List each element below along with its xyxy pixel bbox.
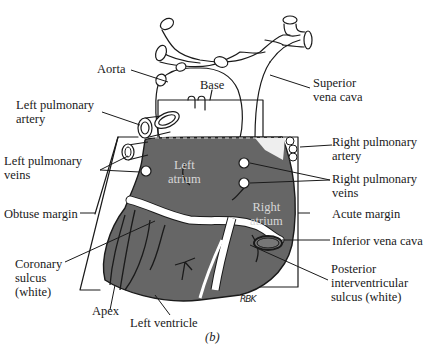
superior-vena-cava [255,40,300,138]
aortic-arch [154,16,312,67]
label-superior-vena-cava: Superior vena cava [313,76,363,104]
label-aorta: Aorta [97,62,125,76]
label-inferior-vena-cava: Inferior vena cava [332,234,423,248]
label-acute-margin: Acute margin [332,207,400,221]
label-left-pulmonary-veins: Left pulmonary veins [4,154,82,182]
label-base: Base [200,78,224,92]
artist-signature: RBK [240,292,255,306]
figure-caption: (b) [205,330,220,344]
label-right-pulmonary-veins: Right pulmonary veins [332,172,417,200]
label-apex: Apex [92,304,119,318]
label-coronary-sulcus: Coronary sulcus (white) [15,257,62,299]
label-right-atrium: Right atrium [250,200,283,228]
label-posterior-interventricular-sulcus: Posterior interventricular sulcus (white… [331,262,408,304]
left-pulmonary-artery [138,96,205,138]
label-obtuse-margin: Obtuse margin [4,207,78,221]
label-left-pulmonary-artery: Left pulmonary artery [16,98,94,126]
label-left-atrium: Left atrium [168,158,201,186]
label-left-ventricle: Left ventricle [130,316,198,330]
label-right-pulmonary-artery: Right pulmonary artery [332,135,417,163]
